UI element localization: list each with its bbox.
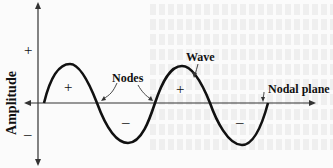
nodal-plane-pointer-arrow-icon [261,97,265,102]
x-axis-arrow-right-icon [309,100,316,106]
lobe-sign-4: – [236,115,244,130]
y-axis-arrow-down-icon [35,159,41,166]
x-axis-arrow-left-icon [24,100,31,106]
standing-wave-diagram: Amplitude + – + – + – Nodes Wave Nodal p… [0,0,333,168]
node-pointer-2 [138,85,151,99]
y-axis-positive-sign: + [24,43,32,58]
nodal-plane-label: Nodal plane [268,83,330,95]
wave-label: Wave [186,51,215,63]
lobe-sign-1: + [64,80,72,95]
node-pointer-2-arrow-icon [148,96,153,101]
node-pointer-1 [103,83,117,99]
nodes-label: Nodes [112,72,143,84]
y-axis-negative-sign: – [24,127,32,142]
node-pointer-1-arrow-icon [101,96,106,101]
lobe-sign-2: – [122,115,130,130]
lobe-sign-3: + [176,82,184,97]
y-axis-arrow-up-icon [35,2,41,9]
wave-curve [44,64,268,145]
y-axis-label: Amplitude [2,58,22,148]
